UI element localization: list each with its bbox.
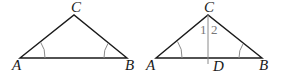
angle-label-1: 1 (200, 22, 207, 37)
vertex-label-a: A (145, 57, 156, 73)
triangle-abc-left: C A B (11, 0, 134, 73)
vertex-label-b: B (125, 57, 134, 73)
angle-a-arc (41, 42, 46, 58)
triangle-abc-right: C A B D 1 2 (145, 0, 268, 74)
triangle-outline (156, 15, 262, 58)
angle-label-2: 2 (211, 22, 218, 37)
triangle-outline (20, 15, 127, 58)
vertex-label-b: B (259, 57, 268, 73)
vertex-label-c: C (204, 0, 215, 15)
vertex-label-c: C (71, 0, 82, 15)
angle-b-arc (104, 44, 108, 59)
vertex-label-d: D (212, 58, 224, 74)
angle-b-arc (239, 44, 243, 58)
angle-a-arc (178, 42, 183, 59)
vertex-label-a: A (11, 57, 22, 73)
geometry-figure: C A B C A B D 1 2 (0, 0, 285, 77)
